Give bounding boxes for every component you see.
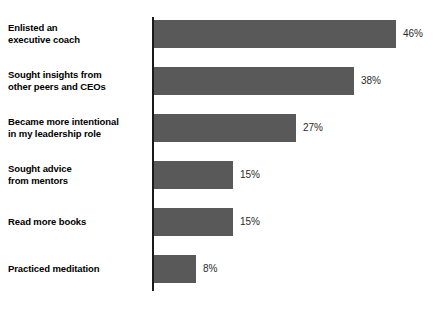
bar-fill [154, 255, 196, 283]
bar-value-label: 27% [303, 122, 323, 133]
bar-fill [154, 20, 396, 48]
bar-category-label: Sought insights from other peers and CEO… [8, 68, 148, 93]
bar-row: Sought advice from mentors 15% [0, 151, 443, 198]
bar-row: Read more books 15% [0, 198, 443, 245]
bar-category-label: Enlisted an executive coach [8, 21, 148, 46]
bar-value-label: 15% [240, 216, 260, 227]
bar-value-label: 15% [240, 169, 260, 180]
bar-fill [154, 114, 296, 142]
bar-track: 46% [154, 20, 423, 48]
bar-value-label: 8% [203, 263, 217, 274]
bar-track: 27% [154, 114, 323, 142]
bar-row: Enlisted an executive coach 46% [0, 10, 443, 57]
bar-category-label: Became more intentional in my leadership… [8, 115, 148, 140]
bar-track: 15% [154, 208, 260, 236]
bar-track: 38% [154, 67, 381, 95]
bar-fill [154, 161, 233, 189]
bar-chart: Enlisted an executive coach 46% Sought i… [0, 0, 443, 314]
bar-fill [154, 208, 233, 236]
bar-row: Practiced meditation 8% [0, 245, 443, 292]
bar-track: 8% [154, 255, 217, 283]
bar-value-label: 46% [403, 28, 423, 39]
bar-category-label: Read more books [8, 215, 148, 228]
bar-row: Became more intentional in my leadership… [0, 104, 443, 151]
bar-row: Sought insights from other peers and CEO… [0, 57, 443, 104]
bar-value-label: 38% [361, 75, 381, 86]
bar-fill [154, 67, 354, 95]
bar-track: 15% [154, 161, 260, 189]
bar-category-label: Sought advice from mentors [8, 162, 148, 187]
bar-category-label: Practiced meditation [8, 262, 148, 275]
